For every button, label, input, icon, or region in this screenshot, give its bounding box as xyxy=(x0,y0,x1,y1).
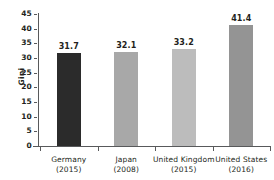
y-tick-label: 10 xyxy=(10,113,32,121)
x-tick-mark xyxy=(213,147,214,151)
x-category-year: (2016) xyxy=(209,165,273,175)
bar-value-label: 41.4 xyxy=(221,14,261,23)
x-category-label: Germany(2015) xyxy=(37,155,101,175)
y-tick-mark xyxy=(34,14,37,15)
y-tick-mark xyxy=(34,29,37,30)
plot-area: 051015202530354045 31.732.133.241.4 Germ… xyxy=(0,0,274,180)
x-category-name: Germany xyxy=(37,155,101,165)
y-tick-mark xyxy=(34,146,37,147)
y-tick-mark xyxy=(34,87,37,88)
y-tick-label: 0 xyxy=(10,142,32,150)
y-tick-mark xyxy=(34,43,37,44)
y-tick-label: 30 xyxy=(10,54,32,62)
y-tick-label: 15 xyxy=(10,98,32,106)
x-tick-mark xyxy=(98,147,99,151)
x-category-year: (2008) xyxy=(94,165,158,175)
y-tick-label: 25 xyxy=(10,69,32,77)
x-category-year: (2015) xyxy=(152,165,216,175)
x-category-year: (2015) xyxy=(37,165,101,175)
bar-value-label: 33.2 xyxy=(164,38,204,47)
y-tick-label: 35 xyxy=(10,39,32,47)
bar xyxy=(229,25,253,146)
x-category-name: United Kingdom xyxy=(152,155,216,165)
y-tick-label: 40 xyxy=(10,25,32,33)
y-tick-mark xyxy=(34,131,37,132)
y-tick-label: 20 xyxy=(10,83,32,91)
bar xyxy=(114,52,138,146)
x-category-name: United States xyxy=(209,155,273,165)
y-tick-label: 5 xyxy=(10,127,32,135)
x-category-label: United Kingdom(2015) xyxy=(152,155,216,175)
x-tick-mark xyxy=(155,147,156,151)
x-tick-mark xyxy=(40,147,41,151)
bar xyxy=(172,49,196,146)
y-tick-mark xyxy=(34,58,37,59)
x-axis-line xyxy=(33,146,271,147)
y-axis-line xyxy=(38,13,39,147)
bar-value-label: 31.7 xyxy=(49,42,89,51)
y-tick-mark xyxy=(34,117,37,118)
bar-value-label: 32.1 xyxy=(106,41,146,50)
y-tick-mark xyxy=(34,102,37,103)
x-tick-mark xyxy=(270,147,271,151)
x-category-label: Japan(2008) xyxy=(94,155,158,175)
bar xyxy=(57,53,81,146)
gini-bar-chart: Gini 051015202530354045 31.732.133.241.4… xyxy=(0,0,274,180)
y-tick-label: 45 xyxy=(10,10,32,18)
y-tick-mark xyxy=(34,73,37,74)
x-category-label: United States(2016) xyxy=(209,155,273,175)
x-category-name: Japan xyxy=(94,155,158,165)
